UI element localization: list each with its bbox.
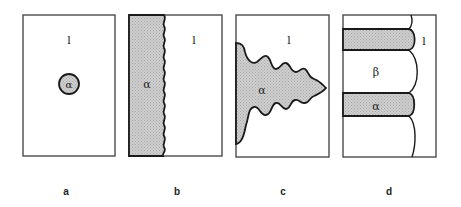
beta-label: β bbox=[373, 66, 379, 79]
panel-a: l α a bbox=[23, 15, 115, 197]
caption-a: a bbox=[63, 186, 69, 197]
liquid-label: l bbox=[192, 34, 196, 47]
panel-d: β α l d bbox=[343, 15, 436, 197]
caption-d: d bbox=[386, 186, 392, 197]
liquid-label: l bbox=[422, 35, 426, 48]
liquid-label: l bbox=[67, 34, 71, 47]
alpha-label: α bbox=[372, 100, 380, 113]
alpha-label: α bbox=[258, 84, 266, 97]
solidification-diagram: l α a α l b α l c β α l d bbox=[0, 0, 461, 207]
panel-c: α l c bbox=[236, 15, 329, 197]
alpha-label: α bbox=[143, 78, 151, 91]
alpha-lamella-top bbox=[343, 29, 415, 50]
caption-b: b bbox=[174, 186, 180, 197]
panel-b: α l b bbox=[129, 15, 222, 197]
caption-c: c bbox=[280, 186, 286, 197]
liquid-label: l bbox=[287, 34, 291, 47]
alpha-label: α bbox=[66, 79, 73, 90]
